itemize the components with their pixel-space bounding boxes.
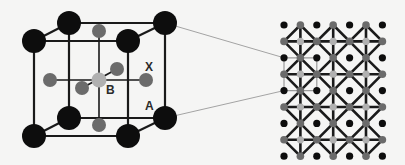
- b-atom: [330, 71, 337, 78]
- a-atom: [280, 120, 287, 127]
- x-atom: [313, 103, 321, 111]
- x-atom: [362, 152, 370, 160]
- b-atom: [92, 73, 107, 88]
- a-atom: [346, 87, 353, 94]
- x-atom: [379, 136, 387, 144]
- x-atom: [329, 87, 337, 95]
- a-atom: [280, 21, 287, 28]
- a-atom: [280, 54, 287, 61]
- b-atom: [330, 103, 337, 110]
- a-atom: [116, 29, 140, 53]
- unit-cell: [22, 11, 177, 148]
- x-atom: [362, 87, 370, 95]
- x-atom: [313, 70, 321, 78]
- a-atom: [280, 153, 287, 160]
- b-atom: [362, 38, 369, 45]
- x-atom: [362, 54, 370, 62]
- a-atom: [22, 124, 46, 148]
- a-atom: [153, 106, 177, 130]
- x-atom: [43, 73, 57, 87]
- x-atom: [346, 136, 354, 144]
- x-atom: [280, 70, 288, 78]
- a-atom: [280, 87, 287, 94]
- x-atom: [329, 120, 337, 128]
- a-atom: [313, 153, 320, 160]
- x-atom: [297, 120, 305, 128]
- perovskite-diagram: X B A: [0, 0, 405, 165]
- leader-lines: [165, 23, 284, 118]
- x-atom: [329, 21, 337, 29]
- a-atom: [57, 11, 81, 35]
- b-atom: [297, 38, 304, 45]
- x-atom: [346, 103, 354, 111]
- a-atom: [346, 54, 353, 61]
- x-atom: [297, 87, 305, 95]
- b-atom: [297, 71, 304, 78]
- x-atom: [92, 24, 106, 38]
- x-atom: [362, 21, 370, 29]
- extended-lattice: [280, 21, 386, 160]
- x-atom: [297, 152, 305, 160]
- b-atom: [362, 71, 369, 78]
- x-atom: [329, 152, 337, 160]
- perovskite-figure: X B A: [0, 0, 405, 165]
- x-atom: [139, 73, 153, 87]
- b-atom: [362, 103, 369, 110]
- x-atom: [362, 120, 370, 128]
- a-atom: [313, 21, 320, 28]
- x-atom: [280, 136, 288, 144]
- x-atom: [75, 81, 89, 95]
- a-atom: [57, 106, 81, 130]
- a-atom: [379, 21, 386, 28]
- leader-line: [165, 91, 284, 118]
- a-atom: [346, 21, 353, 28]
- a-atom: [313, 87, 320, 94]
- a-atom: [379, 54, 386, 61]
- x-atom: [92, 118, 106, 132]
- a-atom: [379, 153, 386, 160]
- x-atom: [346, 70, 354, 78]
- b-atom: [297, 103, 304, 110]
- a-atom: [313, 54, 320, 61]
- x-atom: [110, 62, 124, 76]
- a-atom: [379, 120, 386, 127]
- x-atom: [313, 38, 321, 46]
- x-atom: [346, 38, 354, 46]
- a-atom: [346, 153, 353, 160]
- x-atom: [280, 38, 288, 46]
- x-atom: [329, 54, 337, 62]
- x-atom: [297, 21, 305, 29]
- x-atom: [379, 70, 387, 78]
- a-atom: [313, 120, 320, 127]
- x-atom: [297, 54, 305, 62]
- a-atom: [379, 87, 386, 94]
- x-site-label: X: [145, 60, 153, 74]
- a-atom: [153, 11, 177, 35]
- b-atom: [330, 38, 337, 45]
- leader-line: [165, 23, 284, 58]
- b-atom: [330, 136, 337, 143]
- x-atom: [379, 38, 387, 46]
- b-atom: [297, 136, 304, 143]
- a-atom: [346, 120, 353, 127]
- x-atom: [379, 103, 387, 111]
- x-atom: [280, 103, 288, 111]
- a-atom: [116, 124, 140, 148]
- a-site-label: A: [145, 99, 154, 113]
- a-atom: [22, 29, 46, 53]
- b-site-label: B: [106, 83, 115, 97]
- x-atom: [313, 136, 321, 144]
- b-atom: [362, 136, 369, 143]
